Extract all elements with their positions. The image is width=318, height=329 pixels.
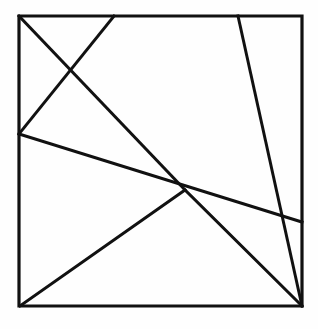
figure-canvas — [0, 0, 318, 329]
line-figure-svg — [0, 0, 318, 329]
